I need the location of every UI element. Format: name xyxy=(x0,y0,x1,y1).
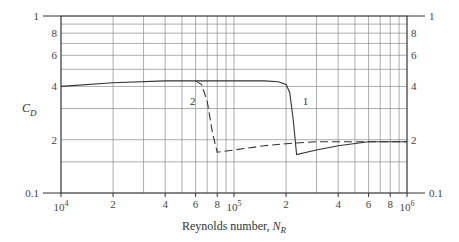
grid-lines xyxy=(61,16,407,193)
y-tick-label: 4 xyxy=(411,80,417,92)
x-tick-label: 105 xyxy=(227,199,242,213)
x-tick-label: 8 xyxy=(214,198,220,210)
curve-label-1: 1 xyxy=(303,95,309,107)
y-tick-label: 4 xyxy=(52,80,58,92)
y-axis-right-ticks: 186420.1 xyxy=(411,10,443,199)
y-axis-label: CD xyxy=(22,101,37,118)
curve-label-2: 2 xyxy=(190,95,196,107)
y-tick-label: 0.1 xyxy=(429,187,443,199)
y-tick-label: 1 xyxy=(429,10,435,22)
x-axis-label: Reynolds number, NR xyxy=(182,219,287,235)
y-tick-label: 2 xyxy=(411,134,417,146)
y-tick-label: 6 xyxy=(52,49,58,61)
x-tick-label: 6 xyxy=(366,198,372,210)
y-tick-label: 8 xyxy=(411,27,417,39)
x-tick-label: 2 xyxy=(110,198,116,210)
drag-coefficient-chart: 186420.1 186420.1 10424681052468106 12 C… xyxy=(0,0,459,242)
x-axis-ticks: 10424681052468106 xyxy=(54,193,415,213)
y-tick-label: 0.1 xyxy=(25,187,39,199)
x-tick-label: 2 xyxy=(283,198,289,210)
y-tick-label: 6 xyxy=(411,49,417,61)
x-tick-label: 4 xyxy=(335,198,341,210)
x-tick-label: 106 xyxy=(400,199,415,213)
x-tick-label: 8 xyxy=(387,198,393,210)
x-tick-label: 6 xyxy=(193,198,199,210)
x-tick-label: 4 xyxy=(162,198,168,210)
y-tick-label: 2 xyxy=(52,134,58,146)
y-tick-label: 1 xyxy=(34,10,40,22)
y-tick-label: 8 xyxy=(52,27,58,39)
curve-2 xyxy=(196,81,407,152)
y-axis-left-ticks: 186420.1 xyxy=(25,10,57,199)
x-tick-label: 104 xyxy=(54,199,69,213)
